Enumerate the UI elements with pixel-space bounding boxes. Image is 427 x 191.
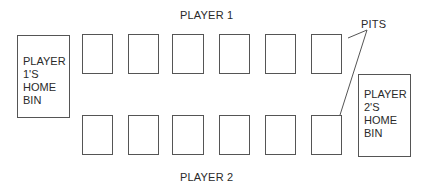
pits-leader-lines [0, 0, 427, 191]
